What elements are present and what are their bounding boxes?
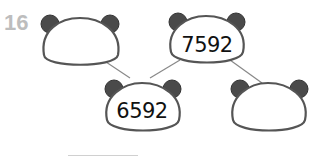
bear-head-top-left[interactable] bbox=[41, 15, 119, 65]
bear-head-bottom-right[interactable] bbox=[231, 80, 308, 131]
connector-line bbox=[230, 60, 262, 83]
connector-line bbox=[150, 60, 180, 78]
answer-line bbox=[68, 155, 138, 156]
node-value-bottom-left: 6592 bbox=[110, 99, 174, 123]
number-tree-diagram bbox=[0, 0, 313, 157]
node-value-top-middle: 7592 bbox=[175, 33, 239, 57]
